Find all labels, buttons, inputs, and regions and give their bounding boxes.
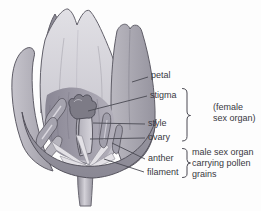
label-style: style xyxy=(148,118,167,129)
annotation-female-sex-organ: (female sex organ) xyxy=(213,102,256,124)
flower-anatomy-diagram: petal stigma style ovary anther filament… xyxy=(0,0,261,211)
annotation-male-line-1: male sex organ xyxy=(192,147,254,158)
label-stigma: stigma xyxy=(150,90,177,101)
label-ovary: ovary xyxy=(148,132,170,143)
annotation-female-line-1: (female xyxy=(213,102,256,113)
bracket-male xyxy=(183,149,191,178)
annotation-male-sex-organ: male sex organ carrying pollen grains xyxy=(192,147,254,180)
annotation-male-line-2: carrying pollen xyxy=(192,158,254,169)
label-petal: petal xyxy=(151,70,171,81)
annotation-male-line-3: grains xyxy=(192,169,254,180)
label-anther: anther xyxy=(148,153,174,164)
annotation-female-line-2: sex organ) xyxy=(213,113,256,124)
bracket-female xyxy=(183,89,191,142)
label-filament: filament xyxy=(147,167,179,178)
